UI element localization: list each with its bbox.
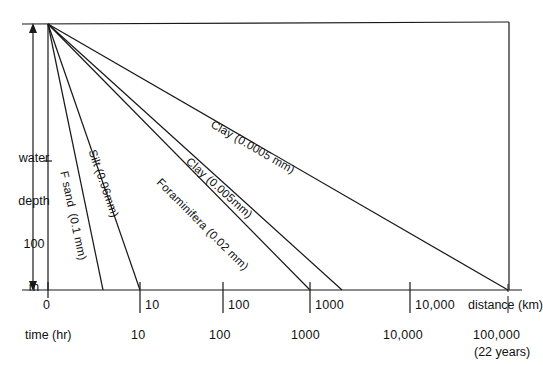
distance-tick-label-100: 100 [228, 298, 250, 312]
sea-surface-line [22, 22, 509, 24]
time-tick-label-10: 10 [131, 328, 146, 342]
time-tick-label-10000: 10,000 [383, 328, 423, 342]
water-depth-label-line1: water [8, 151, 60, 165]
time-tick-label-1000: 1000 [291, 328, 320, 342]
water-depth-unit: m [8, 280, 60, 294]
water-depth-label: water depth 100 m [8, 122, 60, 323]
distance-tick-label-1000: 1000 [315, 298, 344, 312]
distance-axis-caption: distance (km) [468, 298, 543, 312]
sedimentation-settling-diagram: water depth 100 m F sand (0.1 mm) Silt (… [0, 0, 543, 365]
time-tick-label-100: 100 [209, 328, 231, 342]
time-axis-caption: time (hr) [25, 328, 72, 342]
distance-tick-label-10000: 10,000 [415, 298, 455, 312]
water-depth-value: 100 [8, 237, 60, 251]
distance-tick-label-0: 0 [43, 298, 50, 312]
water-depth-label-line2: depth [8, 194, 60, 208]
plot-canvas [0, 0, 543, 365]
time-tick-label-100000: 100,000 [473, 328, 520, 342]
distance-tick-label-10: 10 [145, 298, 160, 312]
time-axis-note: (22 years) [474, 345, 530, 359]
